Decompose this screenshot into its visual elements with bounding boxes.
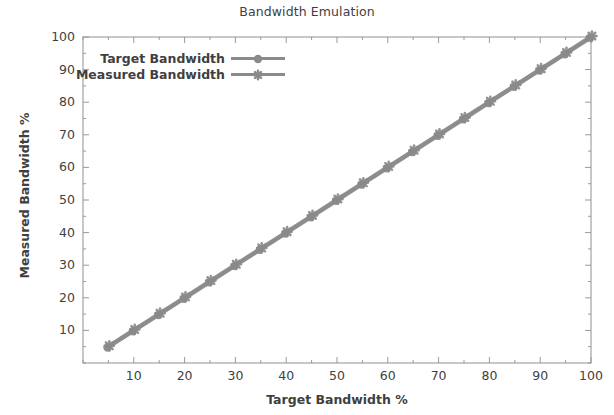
- data-point-star: [460, 113, 469, 122]
- data-point-star: [206, 276, 215, 285]
- data-point-star: [333, 195, 342, 204]
- legend-item-measured-bandwidth: Measured Bandwidth: [95, 66, 285, 82]
- data-point-star: [562, 48, 571, 57]
- data-point-star: [105, 341, 114, 350]
- legend-label-target-bandwidth: Target Bandwidth: [100, 51, 225, 66]
- data-point-star: [156, 309, 165, 318]
- data-point-star: [511, 80, 520, 89]
- chart-legend: Target Bandwidth Measured Bandwidth: [95, 50, 285, 84]
- circle-marker-icon: [252, 53, 264, 65]
- legend-label-measured-bandwidth: Measured Bandwidth: [76, 67, 225, 82]
- data-point-star: [384, 162, 393, 171]
- data-point-star: [232, 260, 241, 269]
- star-marker-icon: [252, 69, 264, 81]
- legend-swatch-measured-bandwidth: [231, 66, 285, 82]
- data-point-star: [359, 178, 368, 187]
- data-point-star: [486, 97, 495, 106]
- data-point-star: [587, 32, 596, 41]
- data-point-star: [283, 227, 292, 236]
- data-point-star: [435, 129, 444, 138]
- data-point-star: [130, 325, 139, 334]
- plot-area: [0, 0, 614, 415]
- data-point-star: [257, 243, 266, 252]
- chart-container: Bandwidth Emulation Measured Bandwidth %…: [0, 0, 614, 415]
- data-point-star: [537, 64, 546, 73]
- legend-item-target-bandwidth: Target Bandwidth: [95, 50, 285, 66]
- data-point-star: [308, 211, 317, 220]
- data-point-star: [410, 146, 419, 155]
- data-point-star: [181, 292, 190, 301]
- legend-swatch-target-bandwidth: [231, 50, 285, 66]
